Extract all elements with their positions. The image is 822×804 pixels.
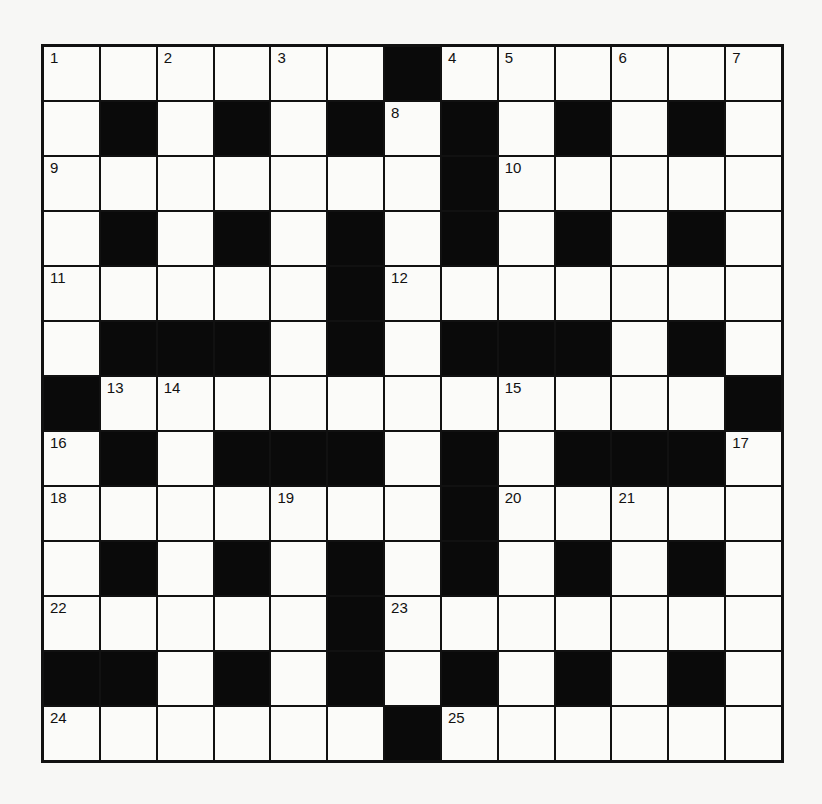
- letter-entry[interactable]: [612, 47, 667, 100]
- grid-cell[interactable]: [44, 102, 99, 155]
- grid-cell[interactable]: [158, 212, 213, 265]
- letter-entry[interactable]: [612, 157, 667, 210]
- grid-cell[interactable]: [726, 322, 781, 375]
- grid-cell[interactable]: [271, 212, 326, 265]
- letter-entry[interactable]: [44, 597, 99, 650]
- grid-cell[interactable]: [556, 267, 611, 320]
- grid-cell[interactable]: [215, 597, 270, 650]
- grid-cell[interactable]: [612, 212, 667, 265]
- grid-cell[interactable]: 7: [726, 47, 781, 100]
- grid-cell[interactable]: [271, 322, 326, 375]
- grid-cell[interactable]: [499, 432, 554, 485]
- grid-cell[interactable]: [215, 377, 270, 430]
- letter-entry[interactable]: [101, 487, 156, 540]
- letter-entry[interactable]: [556, 377, 611, 430]
- letter-entry[interactable]: [669, 267, 724, 320]
- grid-cell[interactable]: [158, 102, 213, 155]
- grid-cell[interactable]: 24: [44, 707, 99, 760]
- grid-cell[interactable]: [101, 267, 156, 320]
- grid-cell[interactable]: [726, 102, 781, 155]
- grid-cell[interactable]: 21: [612, 487, 667, 540]
- grid-cell[interactable]: 19: [271, 487, 326, 540]
- letter-entry[interactable]: [44, 267, 99, 320]
- letter-entry[interactable]: [271, 157, 326, 210]
- letter-entry[interactable]: [726, 707, 781, 760]
- letter-entry[interactable]: [44, 102, 99, 155]
- letter-entry[interactable]: [726, 157, 781, 210]
- grid-cell[interactable]: [215, 267, 270, 320]
- grid-cell[interactable]: [215, 487, 270, 540]
- grid-cell[interactable]: [158, 597, 213, 650]
- grid-cell[interactable]: [158, 267, 213, 320]
- letter-entry[interactable]: [385, 487, 440, 540]
- grid-cell[interactable]: [499, 597, 554, 650]
- letter-entry[interactable]: [215, 47, 270, 100]
- grid-cell[interactable]: [101, 487, 156, 540]
- letter-entry[interactable]: [158, 707, 213, 760]
- grid-cell[interactable]: [271, 377, 326, 430]
- grid-cell[interactable]: [158, 707, 213, 760]
- grid-cell[interactable]: [612, 597, 667, 650]
- grid-cell[interactable]: [726, 707, 781, 760]
- grid-cell[interactable]: 25: [442, 707, 497, 760]
- grid-cell[interactable]: [328, 707, 383, 760]
- letter-entry[interactable]: [215, 597, 270, 650]
- letter-entry[interactable]: [101, 597, 156, 650]
- letter-entry[interactable]: [215, 377, 270, 430]
- letter-entry[interactable]: [499, 47, 554, 100]
- grid-cell[interactable]: [328, 157, 383, 210]
- letter-entry[interactable]: [726, 322, 781, 375]
- grid-cell[interactable]: [101, 707, 156, 760]
- grid-cell[interactable]: [556, 707, 611, 760]
- grid-cell[interactable]: [215, 157, 270, 210]
- grid-cell[interactable]: [385, 212, 440, 265]
- letter-entry[interactable]: [158, 47, 213, 100]
- grid-cell[interactable]: [158, 652, 213, 705]
- letter-entry[interactable]: [44, 47, 99, 100]
- grid-cell[interactable]: [385, 487, 440, 540]
- grid-cell[interactable]: [612, 267, 667, 320]
- grid-cell[interactable]: [385, 322, 440, 375]
- letter-entry[interactable]: [726, 652, 781, 705]
- grid-cell[interactable]: 8: [385, 102, 440, 155]
- letter-entry[interactable]: [271, 102, 326, 155]
- grid-cell[interactable]: 3: [271, 47, 326, 100]
- grid-cell[interactable]: [215, 707, 270, 760]
- letter-entry[interactable]: [328, 47, 383, 100]
- letter-entry[interactable]: [215, 487, 270, 540]
- letter-entry[interactable]: [101, 267, 156, 320]
- letter-entry[interactable]: [101, 377, 156, 430]
- letter-entry[interactable]: [271, 377, 326, 430]
- grid-cell[interactable]: [158, 157, 213, 210]
- grid-cell[interactable]: [271, 652, 326, 705]
- letter-entry[interactable]: [385, 597, 440, 650]
- letter-entry[interactable]: [442, 377, 497, 430]
- grid-cell[interactable]: [442, 377, 497, 430]
- letter-entry[interactable]: [271, 652, 326, 705]
- letter-entry[interactable]: [556, 47, 611, 100]
- letter-entry[interactable]: [726, 597, 781, 650]
- grid-cell[interactable]: [101, 157, 156, 210]
- grid-cell[interactable]: [726, 652, 781, 705]
- letter-entry[interactable]: [612, 322, 667, 375]
- letter-entry[interactable]: [556, 487, 611, 540]
- grid-cell[interactable]: [669, 47, 724, 100]
- letter-entry[interactable]: [612, 267, 667, 320]
- letter-entry[interactable]: [669, 377, 724, 430]
- grid-cell[interactable]: [44, 212, 99, 265]
- grid-cell[interactable]: [385, 377, 440, 430]
- grid-cell[interactable]: [612, 707, 667, 760]
- grid-cell[interactable]: [442, 597, 497, 650]
- letter-entry[interactable]: [442, 267, 497, 320]
- letter-entry[interactable]: [499, 377, 554, 430]
- letter-entry[interactable]: [328, 157, 383, 210]
- letter-entry[interactable]: [612, 542, 667, 595]
- letter-entry[interactable]: [499, 157, 554, 210]
- grid-cell[interactable]: [499, 652, 554, 705]
- letter-entry[interactable]: [669, 157, 724, 210]
- letter-entry[interactable]: [44, 212, 99, 265]
- grid-cell[interactable]: [385, 432, 440, 485]
- letter-entry[interactable]: [669, 487, 724, 540]
- letter-entry[interactable]: [271, 47, 326, 100]
- letter-entry[interactable]: [158, 432, 213, 485]
